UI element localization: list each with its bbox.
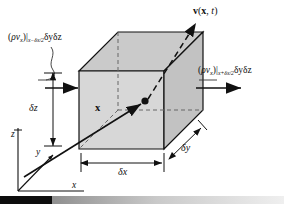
control-volume-illustration	[0, 0, 284, 204]
position-vector-label: x	[95, 103, 100, 114]
mass-flux-out-label: (ρvx)|x+δx/2δyδz	[198, 66, 252, 76]
delta-y-tick-far	[198, 120, 207, 130]
bottom-bar-gradient-segment	[52, 196, 284, 204]
mass-flux-in-label: (ρvx)|x−δx/2δyδz	[8, 33, 62, 43]
axis-label-z: z	[11, 130, 15, 140]
delta-x-label: δx	[118, 167, 127, 177]
delta-y-label: δy	[181, 143, 190, 153]
delta-z-label: δz	[29, 103, 38, 113]
figure-canvas: (ρvx)|x−δx/2δyδz (ρvx)|x+δx/2δyδz v(x, t…	[0, 0, 284, 204]
axis-label-x: x	[72, 181, 76, 191]
bottom-bar-dark-segment	[0, 196, 52, 204]
velocity-field-label: v(x, t)	[193, 6, 217, 16]
axis-y-line	[18, 155, 53, 191]
axis-label-y: y	[36, 148, 40, 158]
page-bottom-bar	[0, 196, 284, 204]
